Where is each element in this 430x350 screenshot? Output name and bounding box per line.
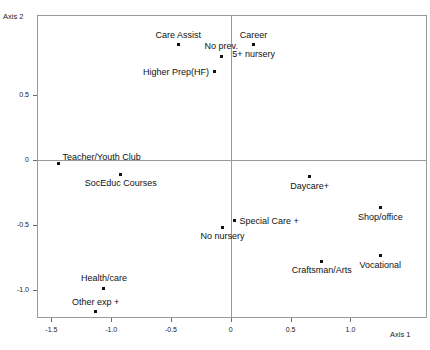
- y-zero-axis-line: [231, 15, 232, 318]
- data-point-label: Care Assist: [155, 31, 201, 40]
- scatter-plot: -1.5-1.0-0.500.51.00.50-0.5-1.0 Care Ass…: [0, 0, 430, 350]
- x-tick: [291, 318, 292, 322]
- data-point: [221, 226, 224, 229]
- y-tick: [33, 290, 37, 291]
- x-axis-title: Axis 1: [390, 330, 410, 339]
- data-point-label: Health/care: [81, 274, 127, 283]
- data-point: [320, 260, 323, 263]
- y-tick: [33, 95, 37, 96]
- x-tick: [350, 318, 351, 322]
- data-point-label: Higher Prep(HF): [143, 67, 209, 76]
- data-point-label: Vocational: [360, 261, 402, 270]
- y-tick: [33, 160, 37, 161]
- data-point-label: Craftsman/Arts: [292, 266, 352, 275]
- y-tick-label: 0: [3, 156, 29, 163]
- data-point: [220, 55, 223, 58]
- data-point-label: Teacher/Youth Club: [63, 152, 141, 161]
- y-tick-label: 0.5: [3, 91, 29, 98]
- data-point: [94, 310, 97, 313]
- data-point: [252, 43, 255, 46]
- data-point-label: Daycare+: [290, 182, 329, 191]
- x-tick: [51, 318, 52, 322]
- data-point-label: Career: [240, 31, 268, 40]
- x-tick: [111, 318, 112, 322]
- x-tick-label: 0.5: [271, 326, 311, 333]
- x-tick-label: -1.5: [31, 326, 71, 333]
- data-point: [177, 43, 180, 46]
- data-point-label: SocEduc Courses: [85, 179, 157, 188]
- data-point: [233, 219, 236, 222]
- data-point: [213, 70, 216, 73]
- x-tick-label: -0.5: [151, 326, 191, 333]
- data-point-label: No nursery: [200, 232, 244, 241]
- y-tick-label: -1.0: [3, 286, 29, 293]
- x-tick: [171, 318, 172, 322]
- data-point-label: 5+ nursery: [232, 50, 275, 59]
- data-point: [308, 175, 311, 178]
- y-tick: [33, 225, 37, 226]
- x-tick-label: 0: [211, 326, 251, 333]
- data-point-label: Other exp +: [72, 298, 119, 307]
- x-tick: [231, 318, 232, 322]
- data-point: [379, 254, 382, 257]
- data-point: [57, 162, 60, 165]
- y-tick-label: -0.5: [3, 221, 29, 228]
- x-tick-label: -1.0: [91, 326, 131, 333]
- data-point-label: Special Care +: [239, 216, 298, 225]
- data-point-label: Shop/office: [358, 213, 403, 222]
- data-point: [119, 173, 122, 176]
- x-tick-label: 1.0: [330, 326, 370, 333]
- data-point: [102, 287, 105, 290]
- data-point: [379, 206, 382, 209]
- y-axis-title: Axis 2: [3, 12, 23, 21]
